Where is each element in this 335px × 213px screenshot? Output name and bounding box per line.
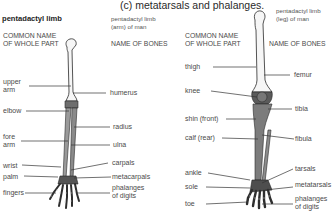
label-upper-arm-1: upper xyxy=(3,78,21,85)
label-humerus: humerus xyxy=(110,89,137,96)
arm-subheading-line2: (arm) of man xyxy=(111,24,146,31)
label-metacarpals: metacarpals xyxy=(112,173,150,180)
elbow-joint xyxy=(65,101,78,108)
label-fingers: fingers xyxy=(3,189,24,196)
diagram-title: (c) metatarsals and phalanges. xyxy=(120,0,264,11)
label-radius: radius xyxy=(113,123,132,130)
label-fore-arm-2: arm xyxy=(3,141,15,148)
leg-common-name-header-line1: COMMON NAME xyxy=(185,32,238,39)
label-metatarsals: metatarsals xyxy=(295,181,331,188)
label-phalanges-leg-2: of digits xyxy=(295,203,319,210)
leg-subheading-line2: (leg) of man xyxy=(276,16,309,23)
humerus-bone xyxy=(66,39,77,101)
leg-bones-header: NAME OF BONES xyxy=(269,40,326,47)
arm-common-name-header-line1: COMMON NAME xyxy=(3,32,56,39)
label-calf: calf (rear) xyxy=(185,134,215,141)
label-knee: knee xyxy=(185,87,200,94)
label-ulna: ulna xyxy=(113,141,126,148)
arm-bones-header: NAME OF BONES xyxy=(111,40,168,47)
arm-bones xyxy=(50,39,79,208)
hand-bones xyxy=(50,184,79,208)
leg-subheading-line1: pentadactyl limb xyxy=(276,8,321,15)
label-sole: sole xyxy=(185,183,198,190)
label-phalanges-leg-1: phalanges xyxy=(295,195,327,202)
label-tibia: tibia xyxy=(295,105,308,112)
label-palm: palm xyxy=(3,173,18,180)
carpals-bones xyxy=(58,176,78,184)
leg-common-name-header-line2: OF WHOLE PART xyxy=(185,40,241,47)
label-carpals: carpals xyxy=(112,159,135,166)
arm-heading: pentadactyl limb xyxy=(2,15,62,23)
label-phalanges-arm-2: of digits xyxy=(112,192,136,199)
arm-common-name-header-line2: OF WHOLE PART xyxy=(3,40,59,47)
label-ankle: ankle xyxy=(185,169,202,176)
label-fibula: fibula xyxy=(295,135,312,142)
femur-bone xyxy=(252,11,272,92)
label-fore-arm-1: fore xyxy=(3,133,15,140)
label-upper-arm-2: arm xyxy=(3,86,15,93)
patella-bone xyxy=(257,92,267,102)
leg-leader-lines xyxy=(206,67,294,204)
ulna-bone xyxy=(63,108,71,178)
radius-bone xyxy=(70,108,77,178)
label-femur: femur xyxy=(294,71,312,78)
label-phalanges-arm-1: phalanges xyxy=(112,184,144,191)
arm-subheading-line1: pentadactyl limb xyxy=(111,16,156,23)
label-toe: toe xyxy=(185,200,195,207)
label-thigh: thigh xyxy=(185,63,200,70)
label-wrist: wrist xyxy=(3,162,17,169)
label-shin: shin (front) xyxy=(185,115,218,122)
label-elbow: elbow xyxy=(3,107,21,114)
label-tarsals: tarsals xyxy=(295,165,316,172)
